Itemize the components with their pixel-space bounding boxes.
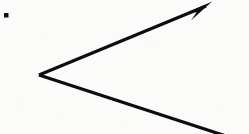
- angle-diagram: [0, 0, 249, 134]
- scan-speckle: [179, 56, 185, 59]
- scan-speckle: [116, 19, 121, 22]
- figure-canvas: A hand-drawn style angle on scanned pape…: [0, 0, 249, 134]
- scan-speckle: [144, 115, 149, 118]
- scan-speckle: [166, 51, 170, 54]
- scan-speckle: [219, 108, 224, 111]
- paper-background: [0, 0, 249, 134]
- scan-speckle: [40, 36, 45, 39]
- scan-speckle: [6, 63, 10, 66]
- scan-speckle: [119, 120, 125, 124]
- scan-speckle: [234, 95, 238, 97]
- scan-speckle: [211, 43, 216, 46]
- scan-speckle: [149, 44, 156, 48]
- corner-dot-marker: [4, 13, 9, 18]
- scan-speckle: [57, 116, 62, 119]
- scan-speckle: [194, 117, 198, 120]
- scan-speckle: [167, 122, 173, 125]
- scan-speckle: [50, 43, 54, 45]
- scan-speckle: [229, 12, 235, 15]
- scan-speckle: [19, 102, 25, 106]
- scan-speckle: [34, 111, 38, 114]
- scan-speckle: [82, 109, 86, 111]
- scan-speckle: [194, 47, 198, 49]
